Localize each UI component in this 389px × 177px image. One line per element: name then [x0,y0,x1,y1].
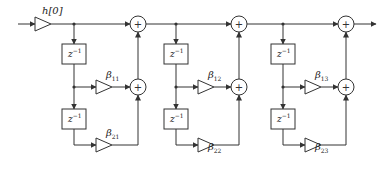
coef-beta12-label: β12 [207,69,222,82]
delay-exponent: −1 [73,112,82,119]
delay-exponent: −1 [175,47,184,54]
adder-plus: + [342,82,350,93]
adder-plus: + [134,19,142,30]
gain-triangle-icon [96,138,112,152]
coef-beta13-label: β13 [314,69,329,82]
gain-h0-label: h[0] [42,5,63,16]
delay-exponent: −1 [175,112,184,119]
adder-plus: + [235,19,243,30]
delay-exponent: −1 [282,112,291,119]
delay-exponent: −1 [282,47,291,54]
signal-flow-diagram: + + + + + + h[0] z−1 z−1 z−1 z−1 z−1 z−1… [0,0,389,177]
delay-exponent: −1 [73,47,82,54]
adder-plus: + [342,19,350,30]
coef-beta21-label: β21 [105,127,119,140]
coef-beta11-label: β11 [105,69,119,82]
coef-beta22-label: β22 [207,141,222,154]
gain-triangle-icon [96,80,112,94]
coef-beta23-label: β23 [314,141,329,154]
adder-plus: + [235,82,243,93]
adder-plus: + [134,82,142,93]
gain-h0-triangle-icon [35,17,51,31]
